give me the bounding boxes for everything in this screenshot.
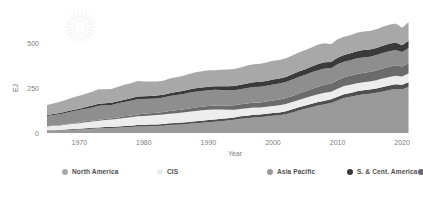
circle-swatch [347, 169, 353, 175]
y-tick-label: 500 [27, 40, 39, 47]
y-axis-title: EJ [12, 84, 19, 92]
y-tick-label: 0 [35, 130, 39, 137]
x-tick-label: 1990 [201, 139, 217, 146]
x-tick-label: 2010 [330, 139, 346, 146]
stacked-area-chart: 0250500 197019801990200020102020 EJ Year [0, 0, 423, 160]
legend-item-label: Asia Pacific [277, 168, 315, 175]
legend-item-label: CIS [167, 168, 178, 175]
x-axis-title: Year [228, 150, 243, 157]
legend-item[interactable]: Asia Pacific [267, 166, 347, 177]
circle-swatch [418, 169, 423, 175]
y-tick-label: 250 [27, 85, 39, 92]
legend-item[interactable]: Middle East [418, 166, 423, 177]
x-tick-label: 1970 [71, 139, 87, 146]
legend-item[interactable]: CIS [157, 166, 267, 177]
x-tick-label: 2000 [265, 139, 281, 146]
circle-swatch [267, 169, 273, 175]
circle-swatch [157, 169, 163, 175]
legend-item[interactable]: North America [62, 166, 157, 177]
legend-item-label: S. & Cent. America [357, 168, 418, 175]
x-tick-label: 1980 [136, 139, 152, 146]
chart-page: 0250500 197019801990200020102020 EJ Year… [0, 0, 423, 216]
x-tick-label: 2020 [394, 139, 410, 146]
chart-legend: North AmericaCISAsia PacificS. & Cent. A… [62, 166, 362, 177]
legend-item-label: North America [72, 168, 119, 175]
x-axis: 197019801990200020102020 [71, 139, 409, 146]
chart-areas [47, 22, 409, 133]
circle-swatch [62, 169, 68, 175]
legend-item[interactable]: S. & Cent. America [347, 166, 418, 177]
y-axis: 0250500 [27, 40, 39, 137]
